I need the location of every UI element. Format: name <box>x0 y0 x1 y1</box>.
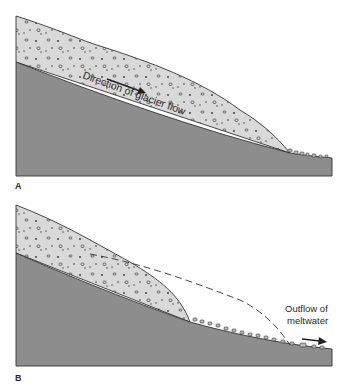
panel-label-b: B <box>15 373 22 383</box>
glacier-diagram: Direction of glacier flow A <box>0 0 349 387</box>
panel-b: Outflow of meltwater B <box>15 205 332 383</box>
outflow-label-line2: meltwater <box>287 315 328 326</box>
outflow-label-line1: Outflow of <box>285 303 328 314</box>
panel-label-a: A <box>15 181 22 191</box>
panel-a: Direction of glacier flow A <box>15 16 332 191</box>
